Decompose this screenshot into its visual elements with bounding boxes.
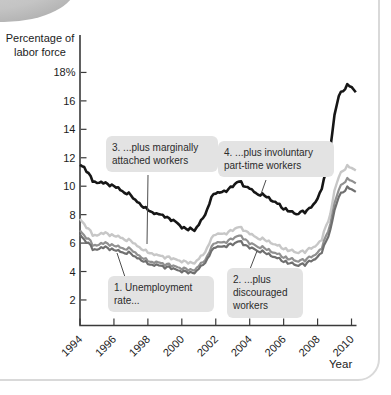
connector-unemployment-rate: [117, 253, 125, 277]
x-tick-label: 1994: [59, 333, 85, 359]
callout-discouraged-workers: 2. ...plus discouraged workers: [227, 268, 303, 318]
x-tick-label: 2004: [228, 333, 254, 359]
corner-decoration-blob: [0, 0, 77, 22]
y-tick-label: 10: [63, 180, 75, 192]
y-tick-label: 14: [63, 123, 75, 135]
x-tick-label: 2008: [296, 333, 322, 359]
y-tick-label: 18%: [53, 66, 75, 78]
y-tick-label: 12: [63, 152, 75, 164]
y-axis-title: Percentage of labor force: [0, 31, 80, 60]
x-axis-title: Year: [329, 358, 352, 370]
x-tick-label: 2002: [194, 333, 220, 359]
x-tick-label: 2000: [160, 333, 186, 359]
callout-unemployment-rate: 1. Unemployment rate...: [108, 276, 214, 312]
x-tick-label: 1996: [93, 333, 119, 359]
series-line-unemployment-rate: [80, 187, 356, 274]
y-tick-label: 8: [69, 209, 75, 221]
callout-marginally-attached-workers: 3. ...plus marginally attached workers: [106, 136, 218, 172]
callout-involuntary-part-time-workers: 4. ...plus involuntary part-time workers: [218, 141, 334, 177]
connector-marginally-attached-workers: [147, 175, 148, 244]
y-tick-label: 16: [63, 95, 75, 107]
y-tick-label: 4: [69, 266, 75, 278]
y-tick-label: 2: [69, 294, 75, 306]
connector-involuntary-part-time-workers: [261, 180, 266, 194]
figure: 24681012141618%1994199619982000200220042…: [0, 0, 391, 395]
connector-discouraged-workers: [250, 251, 257, 269]
x-tick-label: 2010: [330, 333, 356, 359]
x-tick-label: 2006: [262, 333, 288, 359]
y-tick-label: 6: [69, 237, 75, 249]
x-tick-label: 1998: [126, 333, 152, 359]
